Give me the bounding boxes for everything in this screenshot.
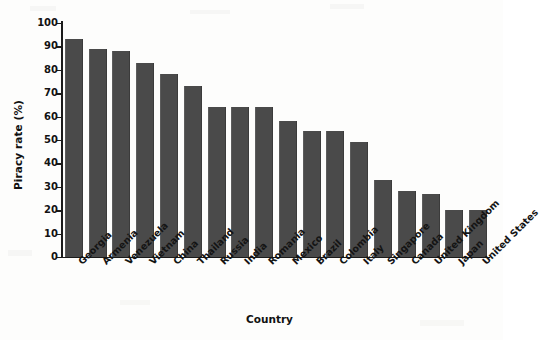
y-axis-tick-label: 70 bbox=[44, 88, 58, 98]
bar bbox=[184, 86, 202, 257]
bar bbox=[65, 39, 83, 257]
bar bbox=[255, 107, 273, 257]
y-axis-tick-label: 0 bbox=[51, 252, 58, 262]
y-axis-title-text: Piracy rate (%) bbox=[12, 100, 24, 190]
y-axis-title: Piracy rate (%) bbox=[8, 80, 28, 210]
y-axis-tick-label: 50 bbox=[44, 135, 58, 145]
y-axis-tick-label: 60 bbox=[44, 112, 58, 122]
y-axis-tick-label: 90 bbox=[44, 41, 58, 51]
y-axis-tick-label: 100 bbox=[37, 18, 58, 28]
y-axis-tick-label: 80 bbox=[44, 65, 58, 75]
x-axis-title: Country bbox=[0, 313, 503, 325]
bar bbox=[112, 51, 130, 257]
bar bbox=[136, 63, 154, 257]
y-axis-tick-label: 30 bbox=[44, 182, 58, 192]
bar bbox=[89, 49, 107, 257]
y-axis-tick-label: 40 bbox=[44, 158, 58, 168]
y-axis-tick-label: 10 bbox=[44, 229, 58, 239]
x-axis-title-text: Country bbox=[246, 313, 293, 325]
y-axis-tick-label: 20 bbox=[44, 205, 58, 215]
x-axis-tick-labels: GeorgiaArmeniaVenezuelaVietnamChinaThail… bbox=[62, 259, 490, 319]
